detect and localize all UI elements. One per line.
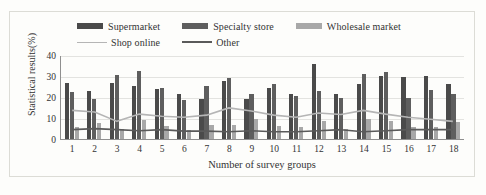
x-tick-label: 16	[404, 144, 414, 154]
line-shop-online	[72, 108, 453, 121]
x-tick-label: 8	[227, 144, 232, 154]
x-tick-label: 17	[427, 144, 437, 154]
x-tick-label: 3	[115, 144, 120, 154]
y-tick-label: 0	[32, 135, 60, 145]
x-tick-label: 7	[205, 144, 210, 154]
x-tick-label: 6	[182, 144, 187, 154]
line-other	[72, 129, 453, 132]
x-tick-label: 13	[337, 144, 347, 154]
y-tick-label: 10	[32, 114, 60, 124]
legend-label-wholesale-market: Wholesale market	[327, 21, 401, 32]
x-tick-label: 1	[70, 144, 75, 154]
x-tick-label: 14	[359, 144, 369, 154]
legend-item-wholesale-market: Wholesale market	[296, 21, 401, 32]
legend-swatch-specialty-store	[182, 23, 208, 29]
legend-item-supermarket: Supermarket	[77, 21, 160, 32]
x-tick-label: 15	[382, 144, 392, 154]
legend-swatch-supermarket	[77, 23, 103, 29]
plot-area-wrapper: 010203040 123456789101112131415161718	[60, 56, 464, 140]
legend-row-2: Shop online Other	[10, 34, 474, 50]
x-tick-label: 5	[160, 144, 165, 154]
x-tick-label: 18	[449, 144, 459, 154]
legend-label-supermarket: Supermarket	[108, 21, 160, 32]
line-series	[61, 56, 464, 139]
legend-item-specialty-store: Specialty store	[182, 21, 274, 32]
legend-swatch-other	[182, 41, 212, 43]
legend-row-1: Supermarket Specialty store Wholesale ma…	[10, 18, 474, 34]
legend-label-specialty-store: Specialty store	[213, 21, 274, 32]
x-axis-title: Number of survey groups	[60, 159, 464, 170]
legend-swatch-wholesale-market	[296, 23, 322, 29]
x-tick-label: 9	[249, 144, 254, 154]
legend-label-shop-online: Shop online	[111, 37, 160, 48]
x-tick-label: 11	[292, 144, 301, 154]
y-tick-label: 30	[32, 72, 60, 82]
chart-figure: Supermarket Specialty store Wholesale ma…	[9, 11, 475, 177]
plot-area: 010203040 123456789101112131415161718	[60, 56, 464, 140]
legend-item-shop-online: Shop online	[77, 37, 160, 48]
legend-item-other: Other	[182, 37, 239, 48]
legend-swatch-shop-online	[77, 42, 107, 43]
x-tick-label: 10	[269, 144, 279, 154]
legend-label-other: Other	[216, 37, 239, 48]
x-tick-label: 12	[314, 144, 324, 154]
x-tick-label: 2	[92, 144, 97, 154]
x-tick-label: 4	[137, 144, 142, 154]
y-tick-label: 20	[32, 93, 60, 103]
chart-legend: Supermarket Specialty store Wholesale ma…	[10, 18, 474, 50]
y-tick-label: 40	[32, 51, 60, 61]
